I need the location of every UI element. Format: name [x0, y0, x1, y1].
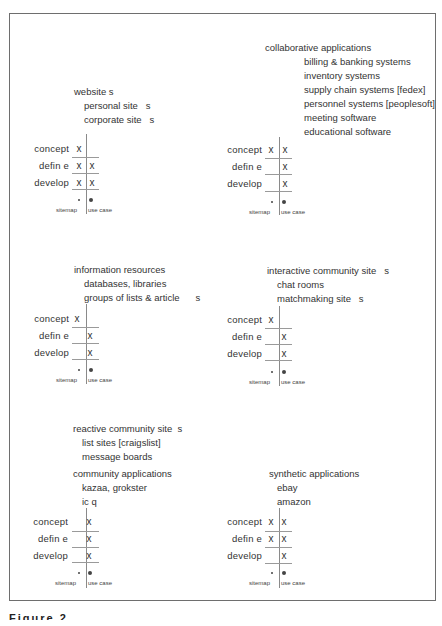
column-label-sitemap: sitemap — [55, 580, 76, 586]
mark-sitemap-concept: x — [266, 314, 276, 325]
mark-usecase-define: x — [84, 533, 94, 544]
row-label-concept: concept — [202, 144, 262, 155]
row-label-define: defin e — [8, 533, 68, 544]
column-label-use-case: use case — [281, 209, 305, 215]
mark-usecase-concept: x — [279, 516, 289, 527]
panel-subtitle: community applications — [73, 468, 172, 479]
sitemap-dot-icon — [78, 572, 80, 574]
panel-item: list sites [craigslist] — [82, 437, 161, 448]
mark-usecase-concept: x — [84, 516, 94, 527]
row-label-define: defin e — [202, 161, 262, 172]
row-divider — [72, 189, 99, 190]
column-label-sitemap: sitemap — [56, 377, 77, 383]
column-label-use-case: use case — [88, 377, 112, 383]
row-label-define: defin e — [9, 330, 69, 341]
column-label-use-case: use case — [281, 580, 305, 586]
panel-item: amazon — [277, 496, 311, 507]
panel-item: chat rooms — [277, 279, 324, 290]
figure-caption: Figure 2 — [9, 612, 68, 620]
row-divider — [72, 531, 99, 532]
mark-usecase-define: x — [85, 330, 95, 341]
panel-item: matchmaking site s — [277, 293, 364, 304]
panel-item: personnel systems [peoplesoft] — [304, 98, 435, 109]
mark-usecase-develop: x — [279, 550, 289, 561]
row-label-develop: develop — [9, 177, 69, 188]
mark-sitemap-concept: x — [266, 144, 276, 155]
panel-item: inventory systems — [304, 70, 380, 81]
column-label-sitemap: sitemap — [56, 207, 77, 213]
panel-item: groups of lists & article s — [84, 292, 200, 303]
sitemap-dot-icon — [78, 369, 80, 371]
row-divider — [72, 562, 99, 563]
use-case-dot-icon — [282, 571, 286, 575]
mark-sitemap-concept: x — [74, 143, 84, 154]
panel-item: supply chain systems [fedex] — [304, 84, 425, 95]
row-label-define: defin e — [202, 533, 262, 544]
row-divider — [72, 327, 99, 328]
row-label-concept: concept — [202, 314, 262, 325]
mark-usecase-define: x — [87, 160, 97, 171]
use-case-dot-icon — [282, 370, 286, 374]
panel-title: interactive community site s — [267, 265, 389, 276]
row-label-concept: concept — [202, 516, 262, 527]
panel-title: information resources — [74, 264, 165, 275]
column-label-sitemap: sitemap — [249, 209, 270, 215]
mark-sitemap-concept: x — [72, 313, 82, 324]
row-divider — [265, 174, 292, 175]
mark-sitemap-define: x — [266, 533, 276, 544]
row-divider — [72, 359, 99, 360]
panel-item: corporate site s — [84, 114, 154, 125]
mark-sitemap-develop: x — [74, 177, 84, 188]
use-case-dot-icon — [89, 198, 93, 202]
row-label-develop: develop — [202, 348, 262, 359]
mark-usecase-develop: x — [87, 177, 97, 188]
row-divider — [72, 547, 99, 548]
panel-item: meeting software — [304, 112, 376, 123]
column-divider — [86, 304, 87, 384]
mark-usecase-develop: x — [280, 178, 290, 189]
column-label-use-case: use case — [88, 207, 112, 213]
panel-item: ebay — [277, 482, 298, 493]
use-case-dot-icon — [282, 200, 286, 204]
sitemap-dot-icon — [271, 201, 273, 203]
mark-usecase-define: x — [279, 533, 289, 544]
row-label-develop: develop — [9, 347, 69, 358]
row-label-define: defin e — [9, 160, 69, 171]
column-label-use-case: use case — [88, 580, 112, 586]
column-divider — [279, 306, 280, 386]
row-divider — [265, 344, 292, 345]
panel-item: billing & banking systems — [304, 56, 411, 67]
row-label-develop: develop — [202, 550, 262, 561]
row-divider — [72, 343, 99, 344]
row-divider — [265, 531, 292, 532]
sitemap-dot-icon — [271, 371, 273, 373]
panel-item: educational software — [304, 126, 391, 137]
panel-title: reactive community site s — [73, 423, 182, 434]
mark-usecase-develop: x — [279, 348, 289, 359]
row-divider — [265, 360, 292, 361]
row-label-develop: develop — [8, 550, 68, 561]
panel-title: synthetic applications — [269, 468, 359, 479]
panel-item: ic q — [82, 496, 97, 507]
mark-usecase-define: x — [280, 161, 290, 172]
mark-usecase-develop: x — [84, 550, 94, 561]
panel-item: personal site s — [84, 100, 151, 111]
column-divider — [86, 134, 87, 214]
panel-item: databases, libraries — [84, 278, 166, 289]
mark-usecase-define: x — [279, 331, 289, 342]
panel-item: kazaa, grokster — [82, 482, 147, 493]
panel-item: message boards — [82, 451, 152, 462]
row-label-concept: concept — [9, 313, 69, 324]
row-label-define: defin e — [202, 331, 262, 342]
mark-sitemap-concept: x — [266, 516, 276, 527]
row-divider — [72, 157, 99, 158]
sitemap-dot-icon — [271, 572, 273, 574]
row-divider — [265, 547, 292, 548]
panel-title: collaborative applications — [265, 42, 371, 53]
row-divider — [72, 173, 99, 174]
row-label-develop: develop — [202, 178, 262, 189]
row-divider — [265, 158, 292, 159]
row-label-concept: concept — [9, 143, 69, 154]
column-label-use-case: use case — [281, 379, 305, 385]
row-divider — [265, 191, 292, 192]
